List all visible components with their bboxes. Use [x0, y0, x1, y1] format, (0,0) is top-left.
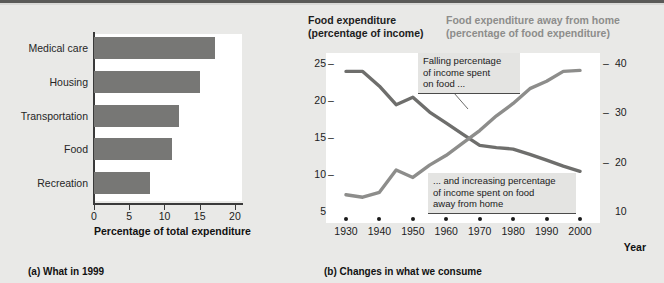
panel-a-x-tick-label: 15 — [188, 210, 212, 222]
panel-b-x-tick-label: 2000 — [560, 225, 600, 237]
panel-b-x-axis-title: Year — [624, 241, 646, 253]
panel-a-x-tick-label: 20 — [223, 210, 247, 222]
figure-container: Medical careHousingTransportationFoodRec… — [0, 0, 664, 283]
panel-b-left-y-tick-dash: – — [328, 94, 334, 106]
callout-1-leader — [454, 93, 468, 109]
panel-b-left-y-tick-label: 10 — [300, 168, 326, 180]
panel-b-callout-falling-line: Falling percentage — [423, 55, 515, 67]
panel-b-x-tick-dot — [578, 217, 582, 221]
panel-b-callout-increasing-line: of income spent on food — [433, 187, 571, 199]
panel-b-callout-falling-line: on food ... — [423, 78, 515, 90]
panel-a-x-tick-label: 10 — [152, 210, 176, 222]
panel-a-caption: (a) What in 1999 — [28, 266, 104, 277]
panel-a-bar — [94, 37, 215, 59]
panel-a-x-axis-title: Percentage of total expenditure — [94, 225, 244, 237]
panel-a-x-axis — [93, 203, 243, 205]
panel-b-right-y-tick-label: 40 — [615, 57, 627, 69]
panel-b-left-y-tick-label: 5 — [300, 205, 326, 217]
panel-b-line-chart: Food expenditure (percentage of income) … — [300, 5, 664, 283]
panel-b-x-tick-dot — [545, 217, 549, 221]
panel-b-callout-falling-line: of income spent — [423, 67, 515, 79]
panel-b-right-y-tick-label: 10 — [615, 205, 627, 217]
panel-b-right-y-tick-label: 20 — [615, 156, 627, 168]
panel-a-x-tick-label: 5 — [117, 210, 141, 222]
panel-a-category-label: Food — [2, 144, 88, 154]
panel-a-category-label: Recreation — [2, 178, 88, 188]
panel-b-x-tick-dot — [344, 217, 348, 221]
panel-a-bar — [94, 138, 172, 160]
panel-a-bar — [94, 71, 200, 93]
panel-b-left-y-tick-label: 25 — [300, 57, 326, 69]
panel-b-left-y-tick-label: 20 — [300, 94, 326, 106]
panel-a-category-label: Medical care — [2, 43, 88, 53]
panel-a-x-tick-label: 0 — [82, 210, 106, 222]
panel-b-left-y-tick-label: 15 — [300, 131, 326, 143]
panel-b-caption: (b) Changes in what we consume — [324, 266, 482, 277]
panel-b-left-y-tick-dash: – — [328, 57, 334, 69]
panel-b-x-tick-dot — [478, 217, 482, 221]
panel-b-callout-increasing-line: ... and increasing percentage — [433, 175, 571, 187]
panel-b-callout-falling: Falling percentageof income spenton food… — [418, 53, 520, 94]
panel-b-right-y-tick-label: 30 — [615, 106, 627, 118]
panel-a-bar-chart: Medical careHousingTransportationFoodRec… — [0, 5, 300, 283]
panel-b-left-y-tick-dash: – — [328, 131, 334, 143]
panel-b-right-y-tick-dash: – — [603, 106, 609, 118]
panel-a-category-label: Housing — [2, 77, 88, 87]
panel-b-callout-increasing: ... and increasing percentageof income s… — [428, 173, 576, 214]
panel-b-left-y-tick-dash: – — [328, 168, 334, 180]
panel-b-right-y-tick-dash: – — [603, 57, 609, 69]
panel-a-category-label: Transportation — [2, 111, 88, 121]
panel-a-bar — [94, 172, 150, 194]
panel-b-x-tick-dot — [411, 217, 415, 221]
panel-b-right-y-tick-dash: – — [603, 156, 609, 168]
panel-a-bar — [94, 105, 179, 127]
panel-b-callout-increasing-line: away from home — [433, 198, 571, 210]
